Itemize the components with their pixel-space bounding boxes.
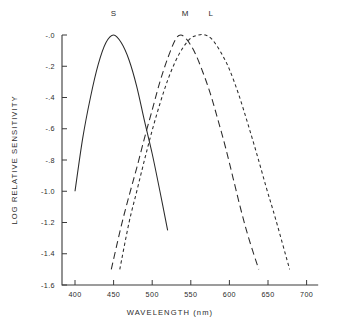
y-axis-tick-labels: -.0-.2-.4-.6-.8-1.0-1.2-1.4-1.6 <box>41 31 55 290</box>
y-tick-label: -1.6 <box>41 281 55 290</box>
y-tick-label: -.6 <box>45 124 55 133</box>
curve-label-l: L <box>208 9 213 18</box>
x-axis-tick-labels: 400450500550600650700 <box>68 290 313 299</box>
curve-l <box>120 35 290 270</box>
y-axis-ticks <box>62 35 67 285</box>
y-axis-title: LOG RELATIVE SENSITIVITY <box>10 95 19 224</box>
x-axis-title: WAVELENGTH (nm) <box>127 308 214 317</box>
x-tick-label: 600 <box>223 290 236 299</box>
x-axis-ticks <box>75 280 307 285</box>
curve-s <box>75 35 168 230</box>
y-tick-label: -1.4 <box>41 249 55 258</box>
curve-label-m: M <box>182 9 189 18</box>
y-tick-label: -.0 <box>45 31 55 40</box>
curve-label-s: S <box>111 9 117 18</box>
x-tick-label: 500 <box>146 290 159 299</box>
curve-m <box>111 35 258 269</box>
curve-labels: SML <box>111 9 214 18</box>
x-tick-label: 650 <box>261 290 274 299</box>
y-tick-label: -.4 <box>45 93 55 102</box>
chart-figure: 400450500550600650700 -.0-.2-.4-.6-.8-1.… <box>0 0 339 330</box>
y-tick-label: -1.2 <box>41 218 55 227</box>
spectral-sensitivity-chart: 400450500550600650700 -.0-.2-.4-.6-.8-1.… <box>0 0 339 330</box>
axis-lines <box>62 35 318 285</box>
y-tick-label: -.2 <box>45 62 55 71</box>
axes <box>62 35 318 285</box>
y-tick-label: -1.0 <box>41 187 55 196</box>
x-tick-label: 450 <box>107 290 120 299</box>
x-tick-label: 400 <box>68 290 81 299</box>
y-tick-label: -.8 <box>45 156 55 165</box>
x-tick-label: 700 <box>300 290 313 299</box>
data-curves <box>75 35 290 270</box>
x-tick-label: 550 <box>184 290 197 299</box>
